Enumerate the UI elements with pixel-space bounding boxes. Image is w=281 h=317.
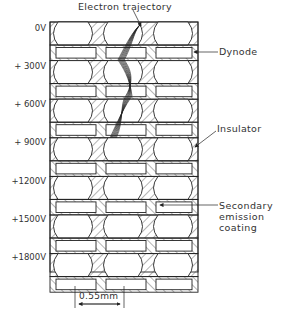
insulator-slot [106, 202, 146, 213]
dynode-cavity [104, 215, 143, 238]
insulator-slot [56, 48, 96, 59]
voltage-label-0: 0V [0, 23, 46, 33]
insulator-slot [156, 279, 192, 290]
insulator-slot [156, 125, 192, 136]
insulator-label: Insulator [217, 124, 261, 134]
voltage-label-1500: +1500V [0, 214, 46, 224]
insulator-slot [156, 48, 192, 59]
secondary-emission-coating-label: Secondary emission coating [219, 200, 273, 233]
insulator-slot [106, 279, 146, 290]
insulator-slot [106, 163, 146, 174]
dynode-cavity [154, 99, 193, 122]
insulator-slot [56, 241, 96, 252]
electron-trajectory-label: Electron trajectory [78, 2, 172, 12]
dynode-cavity [154, 138, 193, 161]
voltage-label-300: + 300V [0, 61, 46, 71]
voltage-label-1200: +1200V [0, 176, 46, 186]
dynode-cavity [104, 254, 143, 277]
dynode-cavity [54, 215, 93, 238]
dynode-cavity [104, 22, 143, 45]
dynode-cavity [54, 99, 93, 122]
dynode-cavity [54, 22, 93, 45]
dynode-cavity [154, 254, 193, 277]
dynode-cavity [54, 61, 93, 84]
insulator-slot [56, 125, 96, 136]
insulator-slot [156, 202, 192, 213]
insulator-slot [56, 279, 96, 290]
dynode-cavity [54, 138, 93, 161]
insulator-slot [56, 163, 96, 174]
dynode-cavity [154, 215, 193, 238]
voltage-label-1800: +1800V [0, 252, 46, 262]
dynode-cavity [154, 176, 193, 199]
insulator-slot [156, 163, 192, 174]
dynode-cavity [54, 176, 93, 199]
insulator-slot [156, 86, 192, 97]
insulator-slot [156, 241, 192, 252]
dynode-cavity [104, 176, 143, 199]
dynode-cavity [154, 61, 193, 84]
voltage-label-600: + 600V [0, 99, 46, 109]
dynode-cavity [104, 138, 143, 161]
insulator-slot [56, 202, 96, 213]
voltage-label-900: + 900V [0, 137, 46, 147]
dynode-label: Dynode [219, 47, 257, 57]
dynode-cavity [154, 22, 193, 45]
dynode-cavity [54, 254, 93, 277]
insulator-slot [56, 86, 96, 97]
scale-bar-label: 0.55mm [79, 291, 118, 301]
insulator-slot [106, 241, 146, 252]
